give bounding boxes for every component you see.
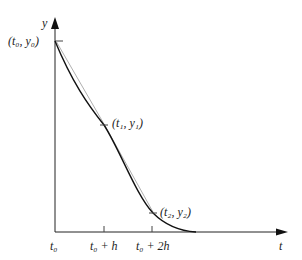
y-axis-arrow-icon [51, 17, 59, 29]
point-label-t1-y1: (t₁, y₁) [112, 117, 143, 129]
tick-label-t0: t₀ [50, 240, 58, 252]
diagram-canvas [0, 0, 302, 260]
point-label-t0-y0: (t₀, y₀) [8, 35, 39, 47]
y-axis-label: y [42, 17, 47, 29]
point-label-t2-y2: (t₂, y₂) [160, 206, 191, 218]
exact-solution-curve [55, 41, 196, 232]
tick-label-t0-plus-h: t₀ + h [90, 240, 118, 252]
x-axis-arrow-icon [276, 229, 288, 236]
tick-label-t0-plus-2h: t₀ + 2h [136, 240, 170, 252]
x-axis-label: t [279, 240, 282, 252]
